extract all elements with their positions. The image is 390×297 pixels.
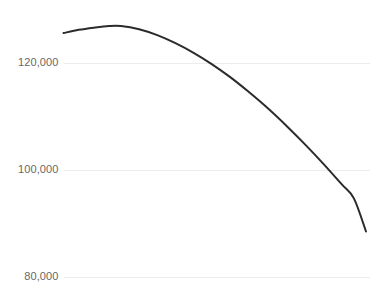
gridlines-group bbox=[64, 64, 371, 278]
series-group bbox=[64, 26, 367, 232]
y-axis-tick-label: 120,000 bbox=[18, 57, 58, 68]
y-axis-tick-label: 80,000 bbox=[24, 271, 58, 282]
chart-container: 120,000100,00080,000 bbox=[0, 0, 390, 297]
chart-plot-area bbox=[0, 0, 390, 297]
series-line bbox=[64, 26, 367, 232]
y-axis-tick-label: 100,000 bbox=[18, 164, 58, 175]
